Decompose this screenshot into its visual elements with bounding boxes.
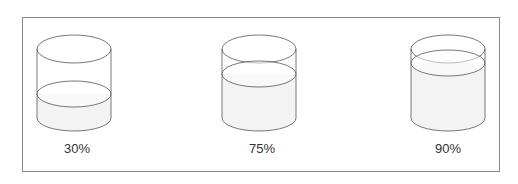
- cylinder-label-90: 90%: [418, 141, 478, 156]
- cylinder-90: [411, 35, 485, 131]
- cylinder-75: [222, 35, 296, 131]
- cylinders-diagram: [0, 0, 518, 184]
- cylinder-label-30: 30%: [47, 141, 107, 156]
- cylinder-label-75: 75%: [232, 141, 292, 156]
- cylinder-30: [37, 35, 111, 131]
